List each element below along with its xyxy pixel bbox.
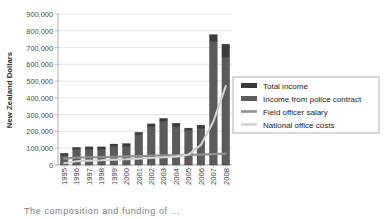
bar-segment [135,132,143,135]
bar-segment [73,147,81,149]
x-axis-tick-label: 1998 [97,168,106,185]
bar-segment [172,123,180,126]
x-axis-tick-label: 2002 [147,168,156,185]
bar-segment [222,58,230,165]
x-axis-tick-label: 2008 [222,168,231,185]
bar-segment [210,42,218,165]
y-axis-tick-label: 700,000 [26,44,53,53]
y-axis-tick-label: 400,000 [26,94,53,103]
bar-segment [185,128,193,131]
y-axis-tick-label: 900,000 [26,10,53,19]
bar-segment [160,118,168,121]
x-axis-tick-label: 1995 [60,168,69,185]
legend-label: National office costs [263,121,334,130]
bar-segment [197,125,205,128]
y-axis-title: New Zealand Dollars [5,51,14,128]
figure-caption: The composition and funding of ... [24,206,364,218]
bar-segment [147,127,155,165]
bar-segment [172,126,180,165]
legend-swatch [241,96,257,101]
x-axis-tick-label: 2001 [135,168,144,185]
bar-segment [210,35,218,42]
y-axis-tick-label: 0 [49,161,53,170]
x-axis-tick-label: 2000 [122,168,131,185]
bar-segment [135,135,143,165]
chart-figure: 0100,000200,000300,000400,000500,000600,… [0,0,384,219]
x-axis-tick-label: 1996 [72,168,81,185]
y-axis-tick-label: 200,000 [26,127,53,136]
bar-segment [147,124,155,127]
x-axis-tick-label: 2004 [172,168,181,185]
plot-area [58,14,232,165]
bar-segment [110,144,118,147]
bar-segment [85,147,93,149]
y-axis-tick-label: 100,000 [26,144,53,153]
y-axis-tick-label: 600,000 [26,60,53,69]
chart-canvas: 0100,000200,000300,000400,000500,000600,… [0,0,384,219]
legend-label: Field officer salary [263,108,328,117]
x-axis-tick-label: 2006 [197,168,206,185]
legend-swatch [241,83,257,88]
bar-segment [185,131,193,165]
legend-label: Total income [263,82,308,91]
x-axis-tick-label: 1997 [85,168,94,185]
x-axis-tick-label: 1999 [110,168,119,185]
y-axis-tick-label: 800,000 [26,27,53,36]
bar-segment [98,147,106,149]
legend-label: Income from police contract [263,95,362,104]
y-axis-tick-label: 300,000 [26,111,53,120]
x-axis-tick-label: 2003 [159,168,168,185]
bar-segment [60,153,68,156]
x-axis-tick-label: 2005 [184,168,193,185]
x-axis-tick-label: 2007 [209,168,218,185]
bar-segment [123,144,131,147]
bar-segment [222,44,230,57]
y-axis-tick-label: 500,000 [26,77,53,86]
